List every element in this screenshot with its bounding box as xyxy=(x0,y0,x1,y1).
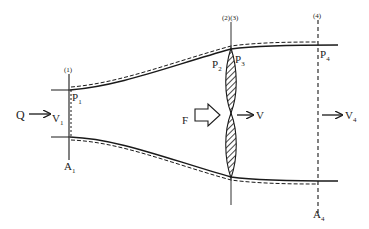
thrust-arrow-icon xyxy=(195,104,220,126)
p3-label: P3 xyxy=(235,53,245,68)
station-1-label: (1) xyxy=(64,66,73,74)
station-4-label: (4) xyxy=(313,12,322,20)
velocity-v-label: V xyxy=(256,109,264,121)
station-23-label: (2)(3) xyxy=(222,14,239,22)
a4-label: A4 xyxy=(313,208,325,223)
top-streamline xyxy=(70,45,338,90)
flow-q-label: Q xyxy=(16,108,25,122)
v1-label: V1 xyxy=(52,112,64,127)
propeller-lower-blade xyxy=(226,113,237,178)
top-streamline-dashed xyxy=(71,42,318,87)
v4-label: V4 xyxy=(345,109,357,124)
p4-label: P4 xyxy=(320,48,330,63)
p2-label: P2 xyxy=(212,58,222,73)
bottom-streamline-dashed xyxy=(71,140,318,184)
p1-label: P1 xyxy=(72,91,82,106)
thrust-f-label: F xyxy=(182,114,188,126)
a1-label: A1 xyxy=(64,160,76,175)
bottom-streamline xyxy=(70,137,338,181)
streamtube-diagram: (1) (2)(3) (4) Q V1 P1 P2 P3 P4 A1 A4 F … xyxy=(0,0,369,229)
